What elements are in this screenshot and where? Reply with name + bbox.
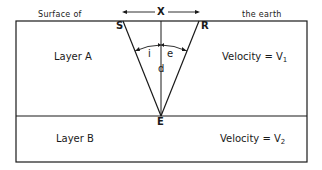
surface-label-left: Surface of <box>38 11 82 19</box>
layer-b-label: Layer B <box>56 134 94 144</box>
emergence-angle-label: e <box>167 49 173 59</box>
arrowhead-icon <box>182 47 187 51</box>
surface-label-right: the earth <box>242 11 282 19</box>
distance-label: X <box>157 7 165 17</box>
layer-a-velocity: Velocity = V1 <box>222 52 287 64</box>
reflected-ray <box>161 21 199 116</box>
layer-a-label: Layer A <box>54 52 92 62</box>
incidence-angle-label: i <box>148 49 151 59</box>
arrowhead-icon <box>122 10 127 14</box>
receiver-point-label: R <box>201 21 209 31</box>
arrowhead-icon <box>135 47 140 51</box>
depth-label: d <box>158 64 164 74</box>
arrowhead-icon <box>195 10 200 14</box>
layer-b-velocity: Velocity = V2 <box>220 134 285 146</box>
reflection-point-label: E <box>157 117 164 127</box>
incident-ray <box>123 21 161 116</box>
source-point-label: S <box>116 21 123 31</box>
